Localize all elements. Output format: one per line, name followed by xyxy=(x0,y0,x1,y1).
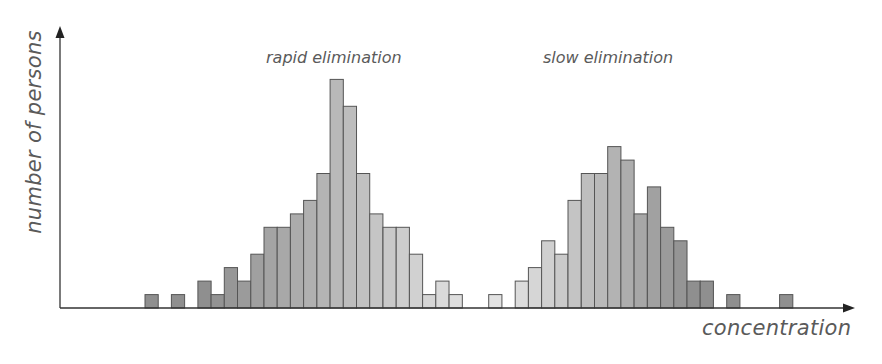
x-axis-arrow-icon xyxy=(843,304,855,313)
histogram-bar xyxy=(634,214,647,308)
annotation-rapid-elimination: rapid elimination xyxy=(266,48,402,67)
bars-group xyxy=(145,79,793,308)
histogram-chart xyxy=(0,0,882,364)
histogram-bar xyxy=(409,254,422,308)
histogram-bar xyxy=(661,227,674,308)
histogram-bar xyxy=(528,268,541,308)
histogram-bar xyxy=(687,281,700,308)
histogram-bar xyxy=(277,227,290,308)
histogram-bar xyxy=(330,79,343,308)
histogram-bar xyxy=(211,295,224,308)
histogram-bar xyxy=(674,241,687,308)
histogram-bar xyxy=(304,200,317,308)
histogram-bar xyxy=(436,281,449,308)
x-axis-label: concentration xyxy=(702,316,851,340)
histogram-bar xyxy=(555,254,568,308)
histogram-bar xyxy=(595,174,608,309)
histogram-bar xyxy=(171,295,184,308)
histogram-bar xyxy=(224,268,237,308)
histogram-bar xyxy=(145,295,158,308)
histogram-bar xyxy=(317,174,330,309)
histogram-bar xyxy=(423,295,436,308)
histogram-bar xyxy=(198,281,211,308)
histogram-bar xyxy=(542,241,555,308)
histogram-bar xyxy=(568,200,581,308)
histogram-bar xyxy=(290,214,303,308)
histogram-bar xyxy=(489,295,502,308)
y-axis-arrow-icon xyxy=(56,26,65,38)
histogram-bar xyxy=(343,106,356,308)
histogram-bar xyxy=(370,214,383,308)
y-axis-label: number of persons xyxy=(22,30,46,234)
histogram-bar xyxy=(608,147,621,308)
histogram-bar xyxy=(383,227,396,308)
histogram-bar xyxy=(449,295,462,308)
histogram-bar xyxy=(357,174,370,309)
histogram-bar xyxy=(264,227,277,308)
histogram-bar xyxy=(515,281,528,308)
histogram-bar xyxy=(251,254,264,308)
histogram-bar xyxy=(396,227,409,308)
histogram-bar xyxy=(621,160,634,308)
annotation-slow-elimination: slow elimination xyxy=(543,48,673,67)
histogram-bar xyxy=(647,187,660,308)
histogram-bar xyxy=(780,295,793,308)
histogram-bar xyxy=(700,281,713,308)
histogram-bar xyxy=(581,174,594,309)
histogram-bar xyxy=(238,281,251,308)
histogram-bar xyxy=(727,295,740,308)
